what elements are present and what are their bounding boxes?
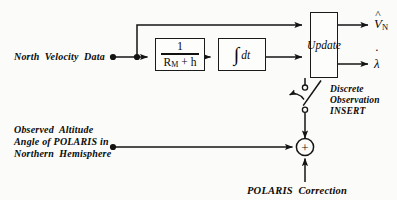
label-observed-altitude-line2: Angle of POLARIS in (14, 136, 109, 147)
output-lambda-base: λ (374, 56, 380, 72)
gain-block[interactable]: 1 RM + h (155, 38, 205, 71)
terminal-dot-north-velocity (110, 54, 116, 60)
fraction-denominator: RM + h (161, 56, 200, 69)
label-discrete-line2: Observation (330, 95, 380, 105)
output-label-north-velocity-estimate: VN (374, 16, 388, 32)
output-vn-subscript: N (382, 22, 388, 32)
label-observed-altitude-line3: Northern Hemisphere (14, 148, 111, 159)
label-observed-altitude-angle: Observed AltitudeAngle of POLARIS inNort… (14, 124, 111, 159)
switch-actuation-arrow (290, 94, 304, 100)
block-diagram-canvas: 1 RM + h ∫dt Update + North Velocity Dat… (0, 0, 397, 200)
label-discrete-line1: Discrete (330, 84, 364, 94)
output-label-longitude-rate-estimate: λ (374, 56, 380, 72)
fraction-bar (161, 53, 200, 54)
integrator-block[interactable]: ∫dt (218, 38, 266, 71)
denominator-tail: + h (181, 56, 196, 68)
label-discrete-line3: INSERT (330, 106, 366, 116)
junction-dot-branch (134, 54, 140, 60)
summing-junction-sign: + (296, 138, 314, 156)
switch-contact-lower[interactable] (302, 107, 307, 112)
switch-contact-upper[interactable] (302, 85, 307, 90)
reciprocal-fraction: 1 RM + h (161, 40, 200, 69)
label-polaris-correction: POLARIS Correction (247, 185, 347, 197)
output-vn-base: V (374, 16, 382, 32)
fraction-numerator: 1 (161, 40, 200, 53)
update-block-label: Update (311, 13, 337, 77)
label-discrete-observation-insert: DiscreteObservationINSERT (330, 84, 380, 118)
integrator-block-content: ∫dt (219, 39, 265, 70)
label-observed-altitude-line1: Observed Altitude (14, 124, 93, 135)
gain-block-content: 1 RM + h (156, 39, 204, 70)
integral-differential: dt (241, 49, 250, 61)
update-block[interactable]: Update (310, 12, 338, 78)
integral-sign: ∫ (234, 43, 239, 65)
switch-blade (303, 81, 321, 106)
denominator-subscript: M (171, 60, 178, 69)
label-north-velocity-data: North Velocity Data (14, 51, 105, 63)
integral-symbol-group: ∫dt (234, 45, 250, 63)
